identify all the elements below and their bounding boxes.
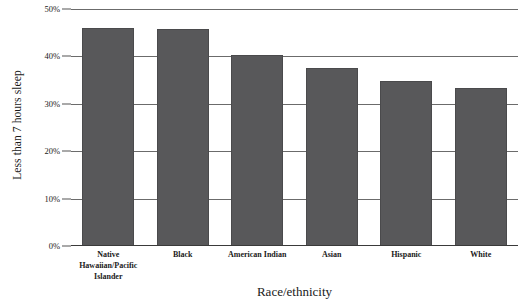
y-axis-tick-labels: 50%40%30%20%10%0% xyxy=(28,0,60,260)
y-axis-tick-mark xyxy=(62,246,71,247)
bar[interactable] xyxy=(455,88,507,246)
y-axis-tick-mark xyxy=(62,198,71,199)
bar-slot xyxy=(220,9,295,246)
bars-layer xyxy=(71,9,518,246)
bar-slot xyxy=(146,9,221,246)
y-axis-tick-label: 40% xyxy=(28,52,60,61)
y-axis-tick-label: 20% xyxy=(28,147,60,156)
bar-slot xyxy=(369,9,444,246)
bar-slot xyxy=(295,9,370,246)
bar[interactable] xyxy=(157,29,209,246)
plot-area xyxy=(71,9,518,246)
bar-slot xyxy=(444,9,519,246)
bar-slot xyxy=(71,9,146,246)
y-axis-tick-mark xyxy=(62,9,71,10)
y-axis-title: Less than 7 hours sleep xyxy=(6,0,28,250)
y-axis-tick-mark xyxy=(62,151,71,152)
y-axis-title-text: Less than 7 hours sleep xyxy=(11,70,23,180)
y-axis-tick-label: 50% xyxy=(28,5,60,14)
bar-chart: Less than 7 hours sleep 50%40%30%20%10%0… xyxy=(0,0,532,307)
y-axis-tick-label: 10% xyxy=(28,194,60,203)
y-axis-tick-label: 30% xyxy=(28,100,60,109)
y-axis-tick-mark xyxy=(62,103,71,104)
y-axis-tick-label: 0% xyxy=(28,242,60,251)
bar[interactable] xyxy=(306,68,358,246)
bar[interactable] xyxy=(231,55,283,246)
y-axis-tick-mark xyxy=(62,56,71,57)
bar[interactable] xyxy=(380,81,432,246)
x-axis-title: Race/ethnicity xyxy=(71,284,518,300)
bar[interactable] xyxy=(82,28,134,246)
plot-baseline-axis xyxy=(71,245,518,246)
